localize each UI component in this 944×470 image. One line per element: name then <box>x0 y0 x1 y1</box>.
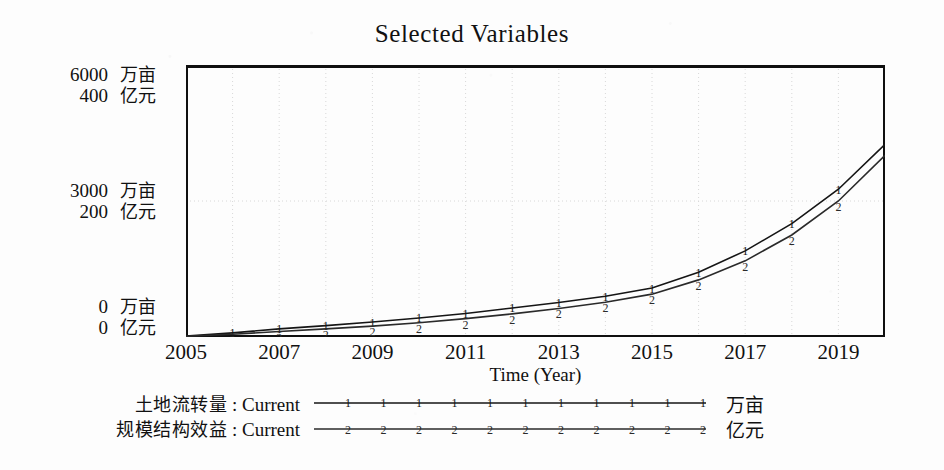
svg-text:2: 2 <box>230 333 236 337</box>
y-axis-value-200: 200 <box>50 201 108 222</box>
y-axis-unit-wanmu-bot: 万亩 <box>108 296 174 317</box>
legend-name-en-series2: Current <box>242 419 300 440</box>
legend-name-en-series1: Current <box>242 394 300 415</box>
x-tick-2013: 2013 <box>538 340 580 365</box>
svg-text:2: 2 <box>835 200 841 214</box>
svg-text:2: 2 <box>323 328 329 337</box>
legend-label-series2: 规模结构效益 : Current <box>0 415 310 441</box>
y-axis-label-bottom-primary: 0万亩 <box>24 296 174 317</box>
svg-text:2: 2 <box>523 423 529 437</box>
legend-separator-series1: : <box>227 394 242 415</box>
legend-unit-series2: 亿元 <box>710 415 764 442</box>
svg-text:2: 2 <box>696 279 702 293</box>
x-axis-tick-labels: 20052007200920112013201520172019 <box>186 340 885 368</box>
x-tick-2007: 2007 <box>258 340 300 365</box>
y-axis-unit-yiyuan-mid: 亿元 <box>108 201 174 222</box>
svg-text:1: 1 <box>381 396 387 410</box>
svg-text:1: 1 <box>416 396 422 410</box>
svg-text:2: 2 <box>665 423 671 437</box>
chart-plot-area: 1111111111111122222222222222 <box>186 65 885 337</box>
chart-legend: 土地流转量 : Current 11111111111 万亩 规模结构效益 : … <box>0 390 944 450</box>
svg-text:2: 2 <box>345 423 351 437</box>
y-axis-label-bottom: 0万亩 0亿元 <box>24 296 174 338</box>
y-axis-value-0-primary: 0 <box>50 296 108 317</box>
svg-text:1: 1 <box>629 396 635 410</box>
y-axis-label-middle: 3000万亩 200亿元 <box>24 180 174 222</box>
y-axis-label-middle-secondary: 200亿元 <box>24 201 174 222</box>
legend-row-series2: 规模结构效益 : Current 22222222222 亿元 <box>0 415 944 441</box>
svg-text:1: 1 <box>696 266 702 280</box>
chart-title: Selected Variables <box>0 20 944 48</box>
y-axis-label-top-primary: 6000万亩 <box>24 64 174 85</box>
x-tick-2005: 2005 <box>165 340 207 365</box>
y-axis-value-400: 400 <box>50 85 108 106</box>
svg-text:2: 2 <box>463 318 469 332</box>
svg-text:1: 1 <box>594 396 600 410</box>
y-axis-unit-wanmu-top: 万亩 <box>108 64 174 85</box>
svg-text:1: 1 <box>558 396 564 410</box>
svg-text:2: 2 <box>381 423 387 437</box>
svg-text:2: 2 <box>602 301 608 315</box>
svg-text:1: 1 <box>345 396 351 410</box>
svg-text:1: 1 <box>665 396 671 410</box>
y-axis-value-0-secondary: 0 <box>50 317 108 338</box>
legend-name-cn-series1: 土地流转量 <box>135 394 228 415</box>
x-tick-2017: 2017 <box>724 340 766 365</box>
svg-text:1: 1 <box>523 396 529 410</box>
svg-text:2: 2 <box>452 423 458 437</box>
svg-text:2: 2 <box>789 234 795 248</box>
y-axis-unit-wanmu-mid: 万亩 <box>108 180 174 201</box>
y-axis-label-top-secondary: 400亿元 <box>24 85 174 106</box>
svg-text:1: 1 <box>742 244 748 258</box>
legend-line-series1: 11111111111 <box>310 391 710 415</box>
svg-text:1: 1 <box>452 396 458 410</box>
legend-line-series2: 22222222222 <box>310 416 710 440</box>
svg-text:2: 2 <box>369 325 375 337</box>
y-axis-label-bottom-secondary: 0亿元 <box>24 317 174 338</box>
svg-text:1: 1 <box>789 217 795 231</box>
svg-text:2: 2 <box>416 423 422 437</box>
svg-text:1: 1 <box>487 396 493 410</box>
legend-name-cn-series2: 规模结构效益 <box>116 419 227 440</box>
x-tick-2019: 2019 <box>817 340 859 365</box>
svg-text:2: 2 <box>556 307 562 321</box>
y-axis-unit-yiyuan-bot: 亿元 <box>108 317 174 338</box>
svg-text:2: 2 <box>487 423 493 437</box>
legend-row-series1: 土地流转量 : Current 11111111111 万亩 <box>0 390 944 416</box>
y-axis-value-3000: 3000 <box>50 180 108 201</box>
svg-text:2: 2 <box>649 293 655 307</box>
x-tick-2015: 2015 <box>631 340 673 365</box>
y-axis-label-top: 6000万亩 400亿元 <box>24 64 174 106</box>
svg-text:2: 2 <box>276 331 282 337</box>
y-axis-label-middle-primary: 3000万亩 <box>24 180 174 201</box>
y-axis-value-6000: 6000 <box>50 64 108 85</box>
svg-text:2: 2 <box>700 423 706 437</box>
legend-label-series1: 土地流转量 : Current <box>0 390 310 416</box>
svg-text:1: 1 <box>835 183 841 197</box>
svg-text:2: 2 <box>558 423 564 437</box>
x-tick-2011: 2011 <box>445 340 486 365</box>
svg-text:2: 2 <box>594 423 600 437</box>
svg-text:2: 2 <box>416 322 422 336</box>
y-axis-unit-yiyuan-top: 亿元 <box>108 85 174 106</box>
legend-separator-series2: : <box>227 419 242 440</box>
svg-text:1: 1 <box>700 396 706 410</box>
svg-text:2: 2 <box>629 423 635 437</box>
svg-text:2: 2 <box>742 260 748 274</box>
svg-text:2: 2 <box>509 313 515 327</box>
x-tick-2009: 2009 <box>351 340 393 365</box>
legend-unit-series1: 万亩 <box>710 390 764 417</box>
